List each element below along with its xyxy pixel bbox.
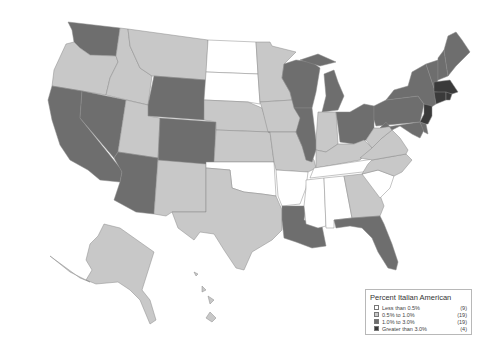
- legend-swatch: [374, 312, 379, 317]
- legend-count: (19): [453, 312, 467, 318]
- legend-count: (4): [453, 326, 467, 332]
- legend-item-greater-than-3-0: Greater than 3.0% (4): [374, 325, 467, 332]
- state-new-mexico: [154, 160, 206, 216]
- state-maine: [444, 32, 470, 76]
- state-florida: [334, 216, 398, 270]
- state-north-dakota: [206, 40, 258, 74]
- legend-swatch: [374, 319, 379, 324]
- legend-label: 0.5% to 1.0%: [382, 312, 453, 318]
- legend-swatch: [374, 326, 379, 331]
- legend-count: (19): [453, 319, 467, 325]
- legend-count: (9): [453, 305, 467, 311]
- legend-label: 1.0% to 3.0%: [382, 319, 453, 325]
- state-south-dakota: [204, 72, 260, 104]
- state-connecticut: [434, 92, 446, 104]
- state-mississippi: [304, 178, 326, 228]
- state-colorado: [158, 118, 216, 166]
- state-pennsylvania: [374, 96, 424, 126]
- legend-swatch: [374, 305, 379, 310]
- state-arizona: [114, 152, 158, 214]
- state-wyoming: [148, 76, 206, 120]
- legend-label: Greater than 3.0%: [382, 326, 453, 332]
- legend-item-1-0-to-3-0: 1.0% to 3.0% (19): [374, 318, 467, 325]
- legend-item-0-5-to-1-0: 0.5% to 1.0% (19): [374, 311, 467, 318]
- map-legend: Percent Italian American Less than 0.5% …: [365, 289, 472, 335]
- legend-label: Less than 0.5%: [382, 305, 453, 311]
- state-kansas: [214, 130, 274, 162]
- state-arkansas: [276, 170, 308, 206]
- state-alaska: [50, 224, 156, 324]
- legend-item-less-than-0-5: Less than 0.5% (9): [374, 304, 467, 311]
- legend-title: Percent Italian American: [370, 293, 467, 302]
- state-hawaii: [194, 272, 216, 322]
